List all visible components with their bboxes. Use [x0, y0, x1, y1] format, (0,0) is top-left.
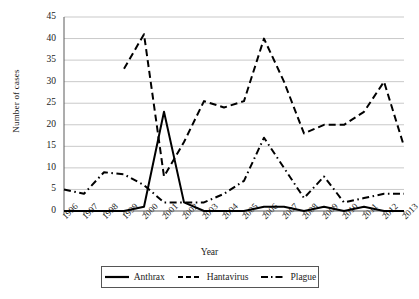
legend-swatch-dashdot-icon — [260, 273, 286, 281]
chart-figure: Number of cases Year 454035302520151050 … — [0, 0, 419, 299]
legend-item-hantavirus: Hantavirus — [177, 272, 249, 282]
series-line-anthrax — [64, 112, 404, 211]
legend-label-anthrax: Anthrax — [134, 272, 165, 282]
legend-label-plague: Plague — [290, 272, 316, 282]
legend-label-hantavirus: Hantavirus — [207, 272, 249, 282]
series-line-hantavirus — [124, 34, 404, 176]
legend-item-plague: Plague — [260, 272, 316, 282]
legend-swatch-dashed-icon — [177, 273, 203, 281]
legend-swatch-solid-icon — [104, 273, 130, 281]
legend-item-anthrax: Anthrax — [104, 272, 165, 282]
series-line-plague — [64, 138, 404, 203]
plot-area — [0, 0, 419, 299]
chart-legend: Anthrax Hantavirus Plague — [101, 266, 319, 288]
